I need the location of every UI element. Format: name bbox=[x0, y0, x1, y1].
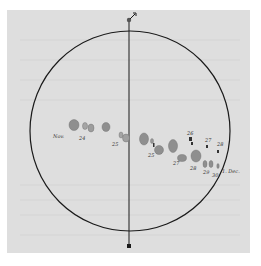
sunspot-track bbox=[69, 120, 219, 169]
label-date-27: 27 bbox=[173, 161, 179, 166]
label-date-26: 26 bbox=[187, 131, 193, 136]
label-start-date: Nov. bbox=[53, 134, 64, 139]
label-date-25b: 25 bbox=[148, 153, 154, 158]
label-end-date: 1. Dec. bbox=[222, 169, 240, 174]
solar-disk-outline bbox=[30, 31, 230, 231]
south-pole-marker-icon bbox=[127, 244, 131, 248]
label-date-27b: 27 bbox=[205, 138, 211, 143]
label-date-28b: 28 bbox=[190, 166, 196, 171]
solar-disk-diagram bbox=[0, 0, 261, 266]
north-arrow-icon bbox=[130, 13, 136, 19]
label-date-24: 24 bbox=[79, 136, 85, 141]
label-date-25: 25 bbox=[112, 142, 118, 147]
label-date-30: 30 bbox=[212, 173, 218, 178]
label-date-29: 29 bbox=[203, 170, 209, 175]
label-date-28: 28 bbox=[217, 142, 223, 147]
